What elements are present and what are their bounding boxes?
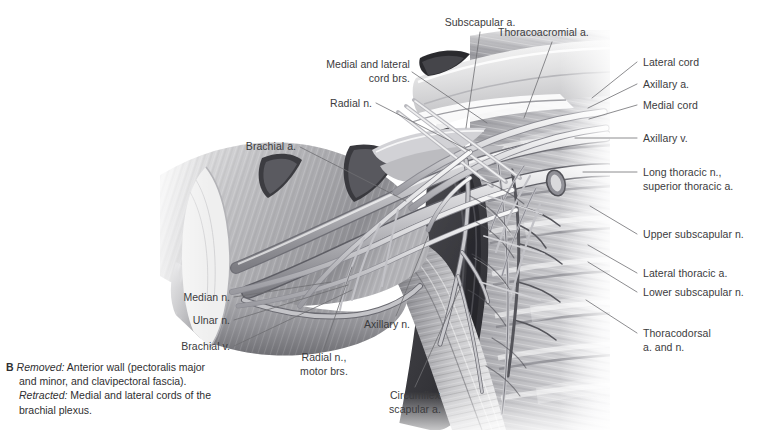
caption-line-1: Anterior wall (pectoralis major [64,361,205,373]
leader-ulnar-n [234,285,348,320]
leader-medial-and-lateral-cord-brs [412,72,487,123]
label-medial-cord: Medial cord [643,99,698,113]
label-upper-subscapular-n: Upper subscapular n. [643,228,744,242]
leader-thoracodorsal-a-and-n [586,300,637,333]
panel-letter: B [6,361,14,373]
caption-removed-keyword: Removed: [17,361,65,373]
label-lower-subscapular-n: Lower subscapular n. [643,286,744,300]
label-radial-n-motor-brs: Radial n., motor brs. [300,351,348,378]
caption-retracted-keyword: Retracted: [19,389,67,401]
leader-axillary-n [396,236,428,316]
label-axillary-v: Axillary v. [643,132,688,146]
label-ulnar-n: Ulnar n. [193,314,230,328]
leader-circumflex-scapular-a [415,284,462,387]
caption-line-4: brachial plexus. [6,403,256,417]
leader-brachial-a [300,147,406,201]
label-lateral-thoracic-a: Lateral thoracic a. [643,267,727,281]
label-radial-n: Radial n. [330,97,372,111]
label-brachial-a: Brachial a. [246,140,296,154]
label-circumflex-scapular-a: Circumflex scapular a. [389,389,441,416]
figure-caption: BRemoved: Anterior wall (pectoralis majo… [6,360,256,417]
label-brachial-v: Brachial v. [181,340,230,354]
label-lateral-cord: Lateral cord [643,56,699,70]
leader-axillary-a [588,84,637,108]
label-axillary-n: Axillary n. [364,318,410,332]
label-medial-and-lateral-cord-brs: Medial and lateral cord brs. [326,58,410,85]
leader-lateral-cord [592,62,637,98]
figure-page: Subscapular a.Thoracoacromial a.Medial a… [0,0,757,444]
label-median-n: Median n. [183,291,230,305]
leader-radial-n [376,103,470,151]
caption-line-2: and minor, and clavipectoral fascia). [6,374,256,388]
leader-thoracoacromial-a [524,42,552,118]
label-axillary-a: Axillary a. [643,78,689,92]
label-thoracoacromial-a: Thoracoacromial a. [498,26,589,40]
leader-medial-cord [589,105,637,119]
leader-radial-n-motor-brs [324,267,352,349]
label-long-thoracic-n-superior-thoracic-a: Long thoracic n., superior thoracic a. [643,166,733,193]
leader-lateral-thoracic-a [588,245,637,273]
leader-lower-subscapular-n [588,262,637,292]
label-thoracodorsal-a-and-n: Thoracodorsal a. and n. [643,327,711,354]
caption-line-3: Medial and lateral cords of the [67,389,211,401]
leader-upper-subscapular-n [590,206,637,234]
